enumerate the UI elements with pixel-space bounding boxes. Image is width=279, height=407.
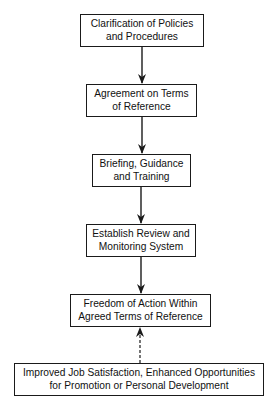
- node-text-line: Freedom of Action Within: [78, 298, 202, 311]
- node-text-line: Agreement on Terms: [94, 88, 188, 101]
- node-text-line: and Training: [100, 171, 184, 184]
- node-freedom-of-action: Freedom of Action Within Agreed Terms of…: [70, 294, 211, 327]
- node-clarification-of-policies: Clarification of Policies and Procedures: [80, 14, 204, 47]
- node-agreement-on-terms: Agreement on Terms of Reference: [86, 84, 197, 117]
- node-briefing-guidance-training: Briefing, Guidance and Training: [92, 154, 191, 187]
- node-text-line: of Reference: [94, 101, 188, 114]
- node-review-monitoring-system: Establish Review and Monitoring System: [86, 224, 196, 257]
- node-text-line: for Promotion or Personal Development: [23, 380, 255, 393]
- connector-arrows: [0, 0, 279, 407]
- node-text-line: Monitoring System: [92, 241, 189, 254]
- node-text-line: Agreed Terms of Reference: [78, 311, 202, 324]
- node-text-line: Establish Review and: [92, 228, 189, 241]
- node-text-line: Briefing, Guidance: [100, 158, 184, 171]
- node-text-line: and Procedures: [91, 31, 193, 44]
- node-text-line: Clarification of Policies: [91, 18, 193, 31]
- node-improved-job-satisfaction: Improved Job Satisfaction, Enhanced Oppo…: [14, 363, 264, 396]
- node-text-line: Improved Job Satisfaction, Enhanced Oppo…: [23, 367, 255, 380]
